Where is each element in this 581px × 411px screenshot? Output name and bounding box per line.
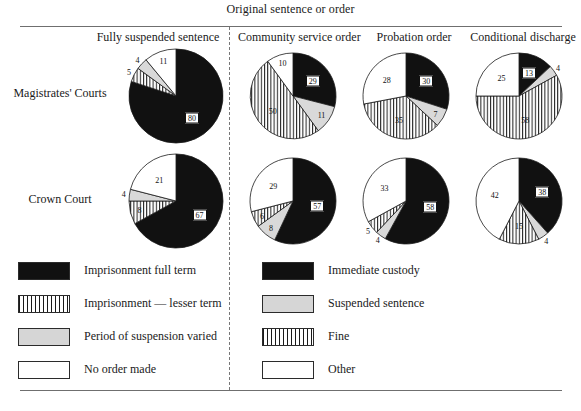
pie-slice-value-label: 8 (138, 206, 142, 215)
pie-chart (127, 47, 225, 145)
pie-slice-value-label: 21 (155, 175, 163, 184)
pie-slice-value-label: 50 (269, 106, 277, 115)
legend-swatch-black (262, 262, 314, 280)
pie-slice-value-label: 4 (136, 56, 140, 65)
rule-bottom (20, 390, 562, 391)
pie-slice-value-label: 38 (535, 187, 549, 198)
figure-supertitle: Original sentence or order (0, 2, 581, 17)
pie-slice-value-label: 5 (366, 226, 370, 235)
pie-slice-value-label: 13 (522, 68, 536, 79)
legend-swatch-stripe (18, 295, 70, 313)
legend-item-label: Period of suspension varied (84, 329, 217, 344)
legend-item-label: Imprisonment — lesser term (84, 296, 222, 311)
pie-slice-value-label: 57 (310, 201, 324, 212)
pie-slice-value-label: 8 (269, 223, 273, 232)
pie-chart (127, 152, 225, 250)
pie-slice-value-label: 29 (306, 75, 320, 86)
rule-top (20, 26, 562, 27)
pie-slice-value-label: 67 (193, 209, 207, 220)
pie-slice-value-label: 25 (497, 74, 505, 83)
pie-slice-value-label: 35 (395, 115, 403, 124)
column-header-fully-suspended-sentence: Fully suspended sentence (88, 30, 228, 45)
pie-chart (248, 156, 338, 246)
legend-item-label: Imprisonment full term (84, 263, 196, 278)
legend-swatch-grey (18, 328, 70, 346)
pie-slice-value-label: 11 (318, 111, 326, 120)
pie-chart (248, 51, 338, 141)
figure-pie-grid: Original sentence or order Fully suspend… (0, 0, 581, 411)
pie-slice-value-label: 6 (260, 211, 264, 220)
pie-slice-value-label: 15 (515, 221, 523, 230)
row-label-crown-court: Crown Court (8, 192, 112, 207)
legend-swatch-white (18, 361, 70, 379)
pie-slice-value-label: 33 (381, 184, 389, 193)
pie-chart (474, 51, 564, 141)
pie-chart (361, 51, 451, 141)
column-header-probation-order: Probation order (362, 30, 466, 45)
legend-swatch-grey (262, 295, 314, 313)
legend-item-label: No order made (84, 362, 156, 377)
vertical-dashed-divider (229, 27, 230, 390)
pie-slice-value-label: 5 (127, 68, 131, 77)
pie-slice-value-label: 58 (521, 116, 529, 125)
pie-slice-value-label: 80 (185, 113, 199, 124)
pie-slice-value-label: 11 (159, 56, 167, 65)
legend-item-label: Suspended sentence (328, 296, 424, 311)
legend-swatch-black (18, 262, 70, 280)
legend-swatch-stripe (262, 328, 314, 346)
column-header-community-service-order: Community service order (238, 30, 360, 45)
pie-chart (361, 156, 451, 246)
pie-slice-value-label: 4 (544, 236, 548, 245)
pie-chart (474, 156, 564, 246)
row-label-magistrates-courts: Magistrates' Courts (8, 86, 112, 101)
pie-slice-value-label: 4 (556, 63, 560, 72)
legend-item-label: Other (328, 362, 355, 377)
pie-slice-value-label: 4 (376, 236, 380, 245)
pie-slice-value-label: 7 (434, 109, 438, 118)
pie-slice-value-label: 28 (383, 76, 391, 85)
legend-item-label: Fine (328, 329, 349, 344)
pie-slice-value-label: 30 (419, 76, 433, 87)
column-header-conditional-discharge: Conditional discharge (466, 30, 580, 45)
pie-slice-value-label: 42 (491, 191, 499, 200)
pie-slice-value-label: 29 (269, 181, 277, 190)
legend-item-label: Immediate custody (328, 263, 420, 278)
legend-swatch-white (262, 361, 314, 379)
pie-slice-value-label: 10 (278, 59, 286, 68)
pie-slice-value-label: 58 (423, 202, 437, 213)
pie-slice-value-label: 4 (122, 190, 126, 199)
